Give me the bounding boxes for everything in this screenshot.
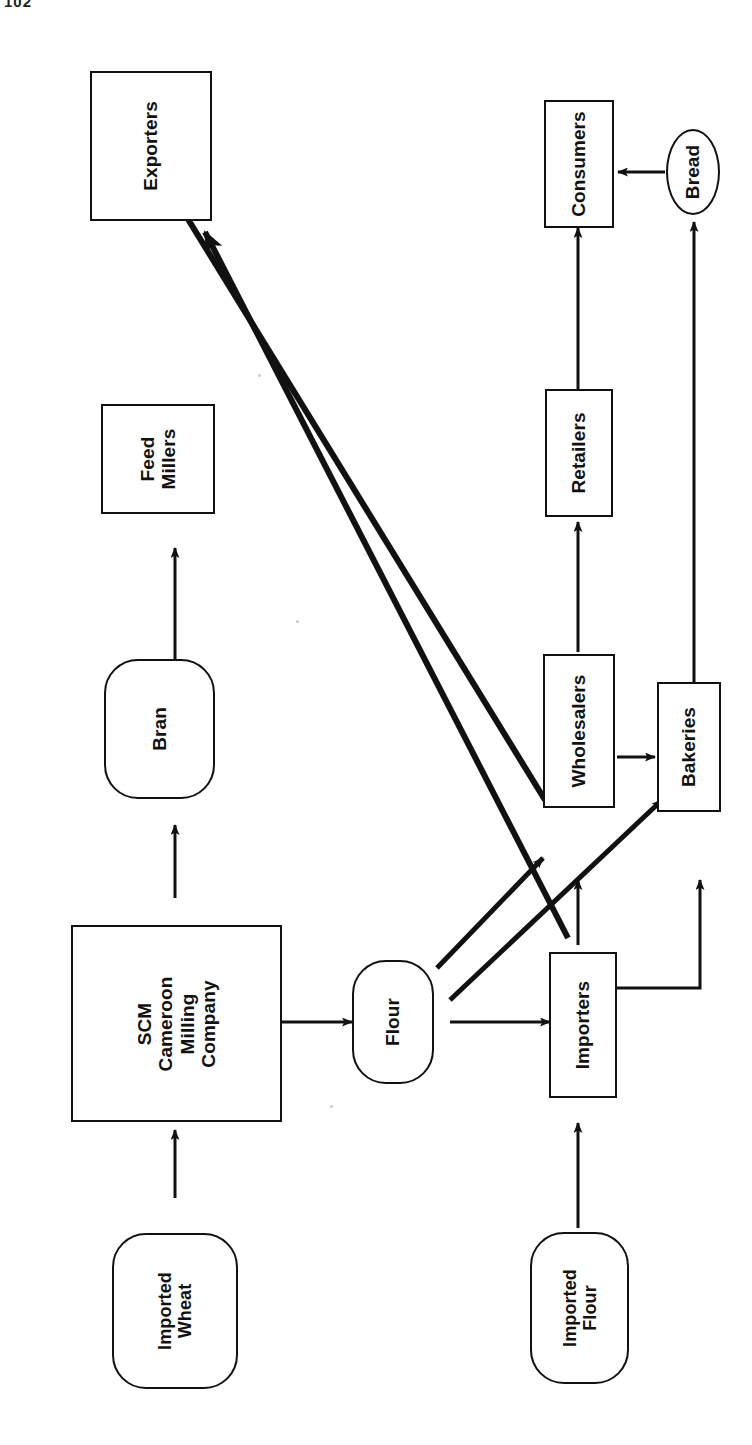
node-exporters-label: Exporters [140, 101, 161, 191]
node-retailers-label: Retailers [568, 412, 589, 493]
node-wholesalers[interactable]: Wholesalers [543, 654, 615, 808]
node-bran-label: Bran [149, 707, 170, 751]
node-retailers[interactable]: Retailers [545, 389, 613, 517]
scan-speck [296, 620, 299, 623]
node-bakeries-label: Bakeries [678, 707, 699, 787]
node-imported-wheat-label: ImportedWheat [155, 1272, 195, 1350]
node-consumers[interactable]: Consumers [544, 100, 614, 228]
node-importers[interactable]: Importers [549, 952, 617, 1098]
node-exporters[interactable]: Exporters [90, 71, 212, 221]
node-importers-label: Importers [572, 981, 593, 1070]
node-scm[interactable]: SCMCameroonMillingCompany [71, 925, 282, 1122]
node-feed-millers[interactable]: FeedMillers [101, 404, 215, 514]
node-imported-wheat[interactable]: ImportedWheat [112, 1233, 238, 1389]
diagram-canvas: 102 [0, 0, 752, 1445]
node-bakeries[interactable]: Bakeries [657, 682, 721, 812]
node-bran[interactable]: Bran [104, 659, 215, 799]
node-flour-label: Flour [382, 998, 403, 1046]
edge-flour-to-wholesalers [437, 858, 543, 968]
node-imported-flour-label: ImportedFlour [559, 1269, 599, 1347]
node-feed-millers-label: FeedMillers [137, 429, 180, 490]
node-bread[interactable]: Bread [666, 129, 720, 215]
edge-importers-to-bakeries-elbow [617, 880, 700, 988]
node-imported-flour[interactable]: ImportedFlour [530, 1232, 629, 1384]
node-scm-label: SCMCameroonMillingCompany [134, 976, 219, 1071]
scan-speck [258, 374, 261, 377]
node-flour[interactable]: Flour [352, 960, 434, 1084]
node-consumers-label: Consumers [568, 111, 589, 216]
edge-wholesalers-to-exporters [175, 198, 545, 800]
node-wholesalers-label: Wholesalers [568, 674, 589, 787]
node-bread-label: Bread [682, 145, 703, 199]
scan-speck [330, 1105, 333, 1108]
